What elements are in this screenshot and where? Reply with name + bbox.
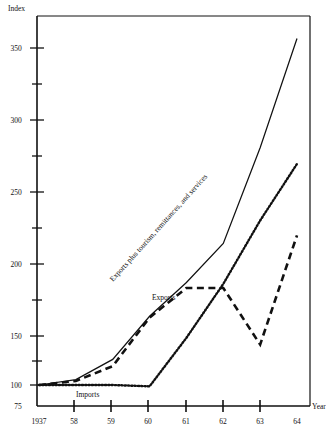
ytick-150: 150 [10,332,22,341]
line-chart: Index Year 350 300 250 200 150 100 75 [0,0,326,437]
xtick-60: 60 [144,417,152,426]
annotation-exports: Exports [152,293,175,302]
xtick-63: 63 [256,417,264,426]
ytick-250: 250 [10,188,22,197]
xtick-64: 64 [293,417,301,426]
xtick-58: 58 [70,417,78,426]
x-axis-title: Year [312,402,326,411]
xtick-1937: 1937 [32,417,47,426]
y-axis-title: Index [8,4,25,13]
ytick-100: 100 [10,381,22,390]
xtick-61: 61 [182,417,190,426]
ytick-300: 300 [10,116,22,125]
series-line-imports [39,164,297,386]
ytick-350: 350 [10,44,22,53]
annotation-exports-plus-services: Exports plus tourism, remittances, and s… [108,172,209,283]
chart-container: Index Year 350 300 250 200 150 100 75 [0,0,326,437]
ytick-75: 75 [14,402,22,411]
xtick-62: 62 [219,417,227,426]
xtick-59: 59 [107,417,115,426]
ytick-200: 200 [10,260,22,269]
annotation-imports: Imports [76,390,99,399]
